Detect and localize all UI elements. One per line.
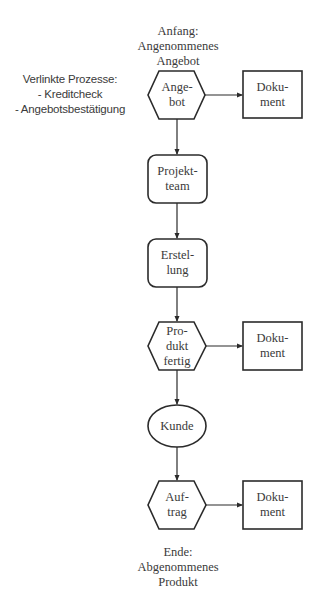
node-erstellung-label: Erstel- lung [148, 239, 207, 287]
linked-processes-note: Verlinkte Prozesse: - Kreditcheck - Ange… [0, 72, 140, 117]
document-3-label: Doku- ment [243, 481, 302, 529]
node-kunde-label: Kunde [148, 405, 206, 447]
node-angebot-label: Ange- bot [148, 71, 206, 119]
node-auftrag-label: Auf- trag [148, 481, 206, 529]
node-projektteam-label: Projekt- team [148, 155, 207, 203]
end-label: Ende: Abgenommenes Produkt [118, 545, 238, 590]
start-label: Anfang: Angenommenes Angebot [118, 24, 238, 69]
document-2-label: Doku- ment [243, 322, 302, 370]
node-produkt-fertig-label: Pro- dukt fertig [148, 322, 206, 370]
document-1-label: Doku- ment [243, 71, 302, 118]
